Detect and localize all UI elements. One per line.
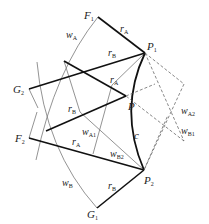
label-wA1: wA1 [82,126,96,138]
label-wB1: wB1 [181,125,195,137]
label-P: P [127,100,135,112]
label-rA-mid: rA [110,74,119,86]
label-rA-top: rA [120,23,129,35]
label-rB-top: rB [108,47,116,59]
geometry-diagram: F1 P1 G2 P F2 P2 G1 rA rB rA rB rA rB wA… [0,0,209,224]
label-rA-low: rA [72,136,81,148]
label-F2: F2 [14,132,25,145]
label-wB: wB [62,177,73,189]
edge-G1-P2 [97,170,144,208]
label-wA: wA [66,29,78,41]
label-G1: G1 [87,208,98,221]
line-G2-arc [29,89,38,108]
label-P2: P2 [143,174,154,187]
label-P1: P1 [146,40,157,53]
label-F1: F1 [83,9,94,22]
label-rB-bot: rB [108,180,116,192]
line-F2-arc [29,112,37,138]
line-wA1-b [93,85,112,154]
edge-G2-P1 [29,53,145,89]
label-c: c [134,129,139,141]
label-rB-mid: rB [68,103,76,115]
label-wA2: wA2 [181,105,195,117]
label-G2: G2 [13,83,24,96]
